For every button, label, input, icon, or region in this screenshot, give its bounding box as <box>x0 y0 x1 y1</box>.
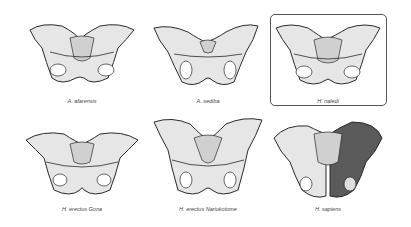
pelvis-illustration <box>268 118 388 202</box>
pelvis-h-erectus-nariokotome: H. erectus Nariokotome <box>148 114 268 214</box>
pelvis-h-naledi: H. naledi <box>268 18 388 118</box>
pelvis-illustration <box>268 18 388 93</box>
pelvis-illustration <box>148 18 268 93</box>
specimen-label: A. sediba <box>148 98 268 104</box>
pelvis-h-erectus-gona: H. erectus Gona <box>22 122 142 222</box>
specimen-label: H. sapiens <box>268 206 388 212</box>
pelvis-a-afarensis: A. afarensis <box>22 18 142 118</box>
pelvis-a-sediba: A. sediba <box>148 18 268 118</box>
specimen-label: H. erectus Nariokotome <box>148 206 268 212</box>
pelvis-illustration <box>22 18 142 93</box>
pelvis-illustration <box>22 122 142 202</box>
pelvis-illustration <box>148 114 268 202</box>
specimen-label: A. afarensis <box>22 98 142 104</box>
pelvis-h-sapiens: H. sapiens <box>268 118 388 218</box>
specimen-label: H. naledi <box>268 98 388 104</box>
specimen-label: H. erectus Gona <box>22 206 142 212</box>
